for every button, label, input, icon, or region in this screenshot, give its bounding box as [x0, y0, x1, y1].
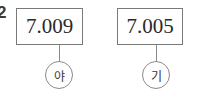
syllable-label: 기	[151, 67, 162, 84]
answer-circle: 기	[142, 61, 170, 89]
question-number: 2	[0, 4, 6, 21]
number-value: 7.005	[126, 14, 173, 39]
connector-line	[156, 45, 157, 61]
syllable-label: 야	[54, 67, 65, 84]
number-box: 7.009	[16, 8, 83, 45]
number-box: 7.005	[117, 8, 183, 45]
number-value: 7.009	[26, 14, 73, 39]
answer-circle: 야	[45, 61, 73, 89]
connector-line	[59, 45, 60, 61]
